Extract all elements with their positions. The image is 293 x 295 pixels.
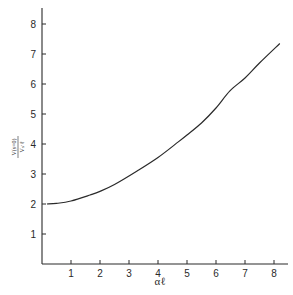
x-tick-label: 5 xyxy=(184,268,190,279)
data-series xyxy=(47,44,280,205)
y-tick-label: 6 xyxy=(30,79,36,90)
y-axis-label-denominator: Vₛ·ℓ xyxy=(19,141,25,152)
y-tick-label: 3 xyxy=(30,169,36,180)
y-tick-label: 5 xyxy=(30,109,36,120)
x-tick-label: 3 xyxy=(126,268,132,279)
series-line xyxy=(47,44,280,205)
y-tick-label: 7 xyxy=(30,49,36,60)
x-tick-label: 6 xyxy=(213,268,219,279)
x-tick-label: 2 xyxy=(97,268,103,279)
y-tick-label: 2 xyxy=(30,199,36,210)
x-axis-ticks: 12345678 xyxy=(68,260,277,279)
line-chart: 12345678 12345678 αℓ V(s=0) Vₛ·ℓ xyxy=(0,0,293,295)
x-tick-label: 8 xyxy=(271,268,277,279)
y-axis-label: V(s=0) Vₛ·ℓ xyxy=(11,136,25,158)
y-axis-label-numerator: V(s=0) xyxy=(11,138,18,155)
y-axis-ticks: 12345678 xyxy=(30,19,46,240)
y-tick-label: 4 xyxy=(30,139,36,150)
x-tick-label: 7 xyxy=(242,268,248,279)
y-tick-label: 8 xyxy=(30,19,36,30)
y-tick-label: 1 xyxy=(30,229,36,240)
x-axis-label: αℓ xyxy=(154,275,165,287)
x-tick-label: 1 xyxy=(68,268,74,279)
